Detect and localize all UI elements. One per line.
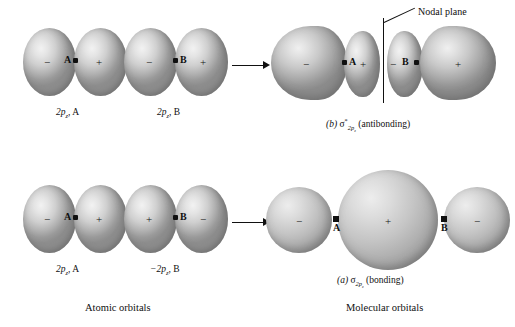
atomic-orbital-label-r1-A: 2pz, A — [56, 108, 79, 119]
mo-caption-sub-r1: 2pz — [348, 124, 356, 131]
mo-atom-label-r1-A: A — [349, 57, 356, 67]
label-r2-b-tail: , B — [168, 264, 179, 274]
atomic-orbital-label-r1-B: 2pz, B — [157, 108, 180, 119]
transform-arrow-head-r1 — [263, 61, 270, 69]
nodal-plane-leader — [384, 8, 415, 23]
mo-atom-label-r1-B: B — [402, 57, 409, 67]
label-r1-a-tail: , A — [68, 107, 79, 117]
atomic-orbital-label-r2-B: −2pz, B — [150, 265, 180, 276]
sign-r1-atomic-3: − — [146, 57, 152, 68]
label-r1-a-main: 2p — [56, 107, 66, 117]
nodal-plane-label: Nodal plane — [418, 7, 467, 17]
label-r2-b-main: −2p — [150, 264, 166, 274]
nucleus-dot-r2-B — [173, 215, 178, 220]
sign-r1-atomic-1: − — [44, 57, 50, 68]
mo-caption-r2: (a) σ2pz (bonding) — [337, 274, 404, 290]
mo-caption-index-r1: (b) — [326, 119, 337, 129]
atom-label-r2-B: B — [180, 212, 187, 222]
atom-label-r1-B: B — [180, 55, 187, 65]
nucleus-dot-r2-A — [73, 215, 78, 220]
sign-r2-atomic-3: + — [146, 214, 152, 225]
sign-r1-mo-1: − — [303, 59, 309, 70]
sign-r1-atomic-4: + — [200, 57, 206, 68]
orbital-diagram: − A + − B + 2pz, A 2pz, B − A + − B + No… — [0, 0, 515, 327]
sign-r2-mo-1: − — [296, 216, 302, 227]
label-r2-a-tail: , A — [68, 264, 79, 274]
molecular-orbitals-caption: Molecular orbitals — [346, 303, 423, 314]
mo-atom-label-r2-A: A — [333, 223, 340, 233]
mo-caption-r1: (b) σ*2pz (antibonding) — [326, 118, 410, 134]
sign-r1-mo-2: + — [360, 59, 366, 70]
mo-nucleus-dot-r1-A — [342, 60, 347, 65]
sign-r2-mo-3: − — [474, 216, 480, 227]
sign-r2-atomic-1: − — [44, 214, 50, 225]
atom-label-r1-A: A — [64, 55, 71, 65]
label-r1-b-main: 2p — [157, 107, 167, 117]
label-r1-b-tail: , B — [169, 107, 180, 117]
sign-r1-atomic-2: + — [96, 57, 102, 68]
nodal-plane-line — [383, 18, 384, 103]
mo-caption-sub-sub-r2: z — [362, 284, 364, 289]
mo-caption-star-r1: * — [345, 117, 348, 124]
mo-caption-sub-sub-r1: z — [354, 128, 356, 133]
sign-r2-atomic-4: − — [200, 214, 206, 225]
atom-label-r2-A: A — [64, 212, 71, 222]
mo-caption-tail-r2: (bonding) — [366, 275, 403, 285]
sign-r2-mo-2: + — [385, 216, 391, 227]
nucleus-dot-r1-B — [173, 58, 178, 63]
mo-nucleus-dot-r1-B — [414, 60, 419, 65]
atomic-orbitals-caption: Atomic orbitals — [85, 303, 151, 314]
nucleus-dot-r1-A — [73, 58, 78, 63]
label-r2-a-main: 2p — [56, 264, 66, 274]
sign-r1-mo-3: − — [390, 59, 396, 70]
transform-arrow-r1 — [232, 65, 264, 66]
mo-atom-label-r2-B: B — [441, 223, 448, 233]
mo-caption-sub-r2: 2pz — [356, 280, 364, 287]
sign-r2-atomic-2: + — [96, 214, 102, 225]
sign-r1-mo-4: + — [455, 59, 461, 70]
mo-caption-tail-r1: (antibonding) — [358, 119, 410, 129]
mo-caption-index-r2: (a) — [337, 275, 348, 285]
atomic-orbital-label-r2-A: 2pz, A — [56, 265, 79, 276]
transform-arrow-r2 — [232, 222, 264, 223]
